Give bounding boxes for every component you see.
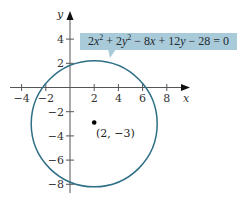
x-axis-arrow-icon [181,84,190,91]
equation-label: 2x2 + 2y2 − 8x + 12y − 28 = 0 [80,33,237,50]
eq-part: + 2 [103,34,122,48]
eq-part: − 28 = 0 [186,34,230,48]
y-axis-label: y [56,8,64,21]
coordinate-plane: −4 −2 2 4 6 8 x 4 2 −2 −4 −6 −8 y (2, −3… [0,0,246,205]
center-point [92,120,97,125]
eq-part: + 12 [155,34,180,48]
eq-part: − 8 [131,34,150,48]
center-point-label: (2, −3) [96,127,135,140]
x-axis-label: x [183,92,190,105]
y-tick-label: −6 [48,154,64,167]
x-tick-label: −2 [38,92,54,105]
x-tick-label: 8 [163,92,170,105]
x-tick-label: 4 [115,92,122,105]
equation-callout-pointer [108,49,116,58]
x-tick-label: 6 [139,92,146,105]
y-axis-arrow-icon [67,11,74,20]
y-tick-label: −4 [48,130,64,143]
y-tick-label: −2 [48,106,64,119]
y-tick-label: −8 [48,178,64,191]
y-tick-label: 2 [57,57,64,70]
x-tick-label: −4 [13,92,29,105]
x-tick-label: 2 [91,92,98,105]
y-tick-label: 4 [57,33,64,46]
